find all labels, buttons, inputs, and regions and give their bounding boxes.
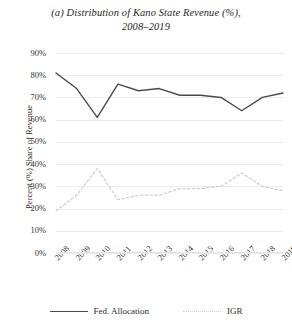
gridline bbox=[56, 253, 283, 254]
legend-swatch-dotted-icon bbox=[183, 311, 221, 312]
legend-label-igr: IGR bbox=[227, 306, 243, 316]
series-line-fed-allocation bbox=[56, 73, 283, 117]
plot-area bbox=[56, 53, 283, 253]
legend-swatch-solid-icon bbox=[50, 311, 88, 312]
legend-label-fed-allocation: Fed. Allocation bbox=[94, 306, 150, 316]
legend-item-fed-allocation: Fed. Allocation bbox=[50, 306, 150, 316]
legend-item-igr: IGR bbox=[183, 306, 243, 316]
series-lines bbox=[56, 53, 283, 253]
figure: (a) Distribution of Kano State Revenue (… bbox=[0, 0, 292, 335]
series-line-igr bbox=[56, 169, 283, 211]
chart-legend: Fed. Allocation IGR bbox=[0, 306, 292, 316]
